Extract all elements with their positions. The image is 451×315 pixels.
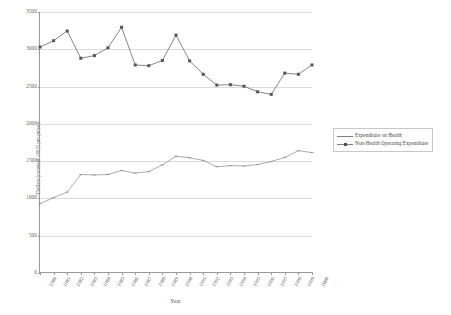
x-tick-label: 1991 bbox=[198, 276, 208, 288]
data-point-marker bbox=[215, 84, 218, 87]
data-point-marker bbox=[175, 34, 178, 37]
series-plot bbox=[40, 12, 313, 273]
legend-item-expenditure-on-health: Expenditure on Health bbox=[337, 132, 428, 140]
x-tick-label: 1996 bbox=[266, 276, 276, 288]
legend-swatch-line-icon bbox=[337, 132, 353, 140]
chart-legend: Expenditure on Health Non-Health Operati… bbox=[333, 128, 433, 152]
data-point-marker bbox=[120, 26, 123, 29]
data-point-marker bbox=[134, 63, 137, 66]
x-tick-label: 1988 bbox=[157, 276, 167, 288]
plot-area: 0500100015002000250030003500 19801981198… bbox=[39, 12, 312, 273]
x-tick-label: 1998 bbox=[293, 276, 303, 288]
x-tick-label: 1980 bbox=[48, 276, 58, 288]
chart-figure: Dollars (constant 1992) per person 05001… bbox=[0, 0, 451, 315]
y-tick-label: 2000 bbox=[26, 121, 37, 126]
x-axis-title: Year bbox=[39, 299, 312, 305]
x-tick-label: 1989 bbox=[171, 276, 181, 288]
x-tick-label: 1985 bbox=[116, 276, 126, 288]
data-point-marker bbox=[79, 57, 82, 60]
y-tick-label: 3500 bbox=[26, 9, 37, 14]
x-tick-label: 1994 bbox=[239, 276, 249, 288]
series-1 bbox=[38, 151, 313, 204]
data-point-marker bbox=[297, 73, 300, 76]
data-point-marker bbox=[52, 39, 55, 42]
x-tick-label: 1983 bbox=[89, 276, 99, 288]
data-point-marker bbox=[161, 59, 164, 62]
data-point-marker bbox=[311, 63, 314, 66]
x-tick-label: 1993 bbox=[225, 276, 235, 288]
y-tick-label: 0 bbox=[34, 270, 37, 275]
data-point-marker bbox=[93, 54, 96, 57]
y-tick-label: 1000 bbox=[26, 196, 37, 201]
data-point-marker bbox=[202, 73, 205, 76]
data-point-marker bbox=[66, 30, 69, 33]
x-tick-label: 1995 bbox=[252, 276, 262, 288]
y-tick-label: 2500 bbox=[26, 84, 37, 89]
data-point-marker bbox=[256, 90, 259, 93]
x-tick-label: 1984 bbox=[103, 276, 113, 288]
data-point-marker bbox=[283, 72, 286, 75]
x-tick-label: 1986 bbox=[130, 276, 140, 288]
x-tick-label: 1981 bbox=[62, 276, 72, 288]
data-point-marker bbox=[107, 46, 110, 49]
legend-item-non-health-operating-expenditure: Non-Health Operating Expenditure bbox=[337, 140, 428, 148]
legend-swatch-line-square-icon bbox=[337, 140, 353, 148]
x-tick-label: 1992 bbox=[211, 276, 221, 288]
data-point-marker bbox=[147, 64, 150, 67]
y-tick-label: 3000 bbox=[26, 47, 37, 52]
y-tick-label: 500 bbox=[29, 233, 37, 238]
legend-label: Expenditure on Health bbox=[355, 133, 402, 138]
legend-label: Non-Health Operating Expenditure bbox=[355, 141, 428, 146]
x-tick-label: 1987 bbox=[143, 276, 153, 288]
y-tick-label: 1500 bbox=[26, 159, 37, 164]
x-tick-label: 1982 bbox=[75, 276, 85, 288]
x-tick-label: 1997 bbox=[279, 276, 289, 288]
series-line bbox=[40, 151, 312, 204]
x-tick-label: 2000 bbox=[320, 276, 330, 288]
series-2 bbox=[39, 26, 314, 96]
data-point-marker bbox=[270, 93, 273, 96]
data-point-marker bbox=[188, 59, 191, 62]
x-tick-label: 1990 bbox=[184, 276, 194, 288]
data-point-marker bbox=[229, 83, 232, 86]
x-tick-label: 1999 bbox=[307, 276, 317, 288]
data-point-marker bbox=[39, 46, 42, 49]
series-line bbox=[40, 27, 312, 94]
data-point-marker bbox=[243, 85, 246, 88]
